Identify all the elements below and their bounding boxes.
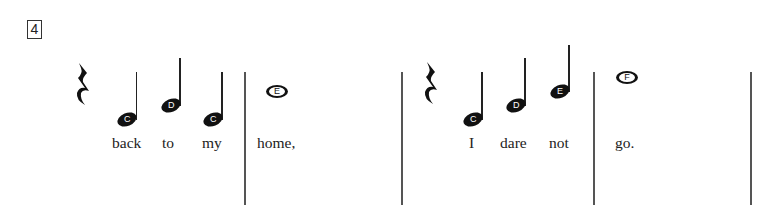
whole-note-f: F bbox=[616, 71, 638, 84]
quarter-rest-icon bbox=[423, 62, 439, 104]
note-stem bbox=[481, 72, 483, 120]
note-letter: E bbox=[557, 87, 563, 96]
lyric: I bbox=[469, 134, 474, 152]
note-letter: D bbox=[513, 101, 520, 110]
barline bbox=[244, 72, 246, 205]
whole-note-e: E bbox=[266, 85, 288, 98]
note-letter: C bbox=[210, 115, 217, 124]
lyric: my bbox=[202, 134, 222, 152]
lyric: dare bbox=[500, 134, 527, 152]
lyric: not bbox=[549, 134, 569, 152]
note-letter: C bbox=[124, 115, 131, 124]
music-score: 4 C D C back to my E home, C D E I dare … bbox=[0, 0, 769, 215]
barline bbox=[750, 72, 752, 205]
lyric: go. bbox=[615, 134, 634, 152]
note-letter: F bbox=[624, 73, 630, 82]
barline bbox=[401, 72, 403, 205]
note-stem bbox=[221, 72, 223, 120]
lyric: to bbox=[162, 134, 174, 152]
note-letter: C bbox=[470, 115, 477, 124]
note-letter: D bbox=[168, 101, 175, 110]
lyric: back bbox=[112, 134, 141, 152]
note-stem bbox=[524, 58, 526, 106]
note-letter: E bbox=[274, 87, 280, 96]
quarter-rest-icon bbox=[75, 63, 91, 105]
barline bbox=[593, 72, 595, 205]
note-stem bbox=[136, 72, 138, 120]
note-stem bbox=[179, 58, 181, 106]
exercise-number-box: 4 bbox=[27, 20, 42, 39]
lyric: home, bbox=[257, 134, 295, 152]
note-stem bbox=[568, 45, 570, 92]
